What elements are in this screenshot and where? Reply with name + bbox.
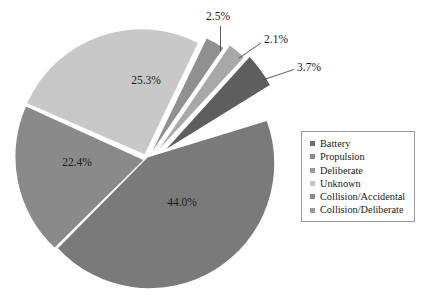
legend-marker-collision-deliberate-icon <box>310 208 315 213</box>
pie-slices <box>15 29 274 288</box>
legend-item-unknown[interactable]: Unknown <box>307 177 410 190</box>
label-unknown: 25.3% <box>131 74 161 86</box>
legend-item-propulsion[interactable]: Propulsion <box>307 150 410 163</box>
label-deliberate: 22.4% <box>62 156 92 168</box>
legend-label-collision-accidental: Collision/Accidental <box>320 190 405 203</box>
legend-marker-deliberate-icon <box>310 168 315 173</box>
legend-item-collision-deliberate[interactable]: Collision/Deliberate <box>307 203 410 216</box>
legend-label-collision-deliberate: Collision/Deliberate <box>320 203 404 216</box>
legend-label-deliberate: Deliberate <box>320 164 363 177</box>
label-collision-accidental: 44.0% <box>167 196 197 208</box>
label-propulsion: 2.1% <box>264 33 288 45</box>
legend-item-battery[interactable]: Battery <box>307 137 410 150</box>
leader-line-collision-deliberate <box>264 70 294 80</box>
label-collision-deliberate: 3.7% <box>297 61 321 73</box>
legend-item-deliberate[interactable]: Deliberate <box>307 164 410 177</box>
legend-marker-unknown-icon <box>310 181 315 186</box>
chart-legend: Battery Propulsion Deliberate Unknown Co… <box>301 131 415 222</box>
legend-label-battery: Battery <box>320 137 350 150</box>
leader-line-propulsion <box>239 43 262 59</box>
pie-chart-figure: 25.3% 22.4% 44.0% 2.5% 2.1% 3.7% Battery… <box>0 0 431 301</box>
legend-marker-collision-accidental-icon <box>310 194 315 199</box>
legend-marker-battery-icon <box>310 141 315 146</box>
legend-marker-propulsion-icon <box>310 154 315 159</box>
legend-label-propulsion: Propulsion <box>320 150 365 163</box>
legend-item-collision-accidental[interactable]: Collision/Accidental <box>307 190 410 203</box>
label-battery: 2.5% <box>206 10 230 22</box>
legend-label-unknown: Unknown <box>320 177 361 190</box>
